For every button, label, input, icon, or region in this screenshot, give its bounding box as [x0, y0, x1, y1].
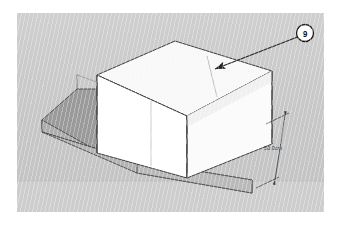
- callout-leader-line: [215, 36, 300, 69]
- callout-number: 9: [303, 29, 308, 39]
- dimension-label: 50.0cm: [264, 145, 282, 151]
- base-slab-rear-edge: [77, 75, 79, 89]
- 3d-scene: 50.0cm 9: [17, 13, 324, 212]
- model-viewport[interactable]: 50.0cm 9: [17, 13, 324, 212]
- screenshot-root: 50.0cm 9: [0, 0, 340, 225]
